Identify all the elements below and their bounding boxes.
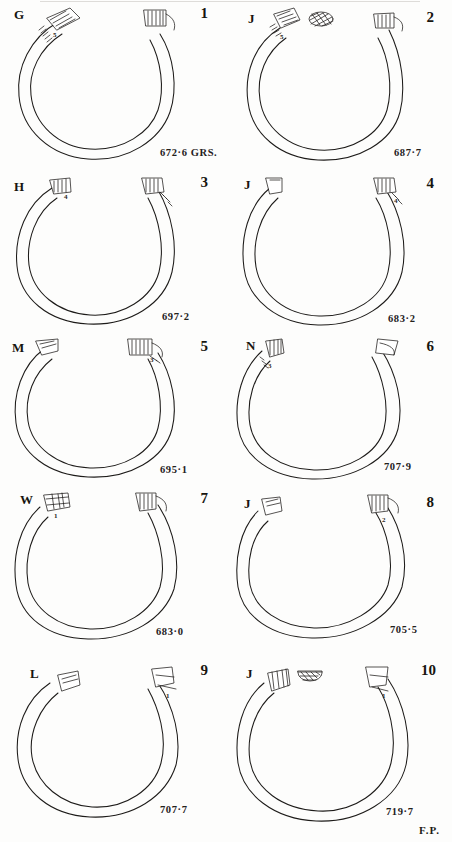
letter-code-2: J xyxy=(248,12,255,25)
weight-label-3: 697·2 xyxy=(162,312,190,323)
figure-cell-1: G 1 5 672·6 GRS. xyxy=(0,0,226,168)
bracelet-drawing-1 xyxy=(0,0,226,168)
weight-label-7: 683·0 xyxy=(156,627,184,638)
figure-grid: G 1 5 672·6 GRS. xyxy=(0,0,452,842)
figure-number-8: 8 xyxy=(427,495,435,510)
letter-code-3: H xyxy=(14,180,25,193)
weight-label-9: 707·7 xyxy=(160,805,188,816)
weight-label-4: 683·2 xyxy=(388,314,416,325)
weight-label-8: 705·5 xyxy=(390,625,418,636)
weight-label-5: 695·1 xyxy=(160,465,188,476)
letter-code-8: J xyxy=(244,497,251,510)
figure-cell-4: J 4 4 683·2 xyxy=(226,168,452,335)
letter-code-9: L xyxy=(30,667,39,680)
figure-cell-3: H 3 4 697·2 xyxy=(0,168,226,335)
micro-annotation-4: 4 xyxy=(394,198,398,205)
micro-annotation-8: 2 xyxy=(382,517,386,524)
bracelet-drawing-3 xyxy=(0,168,226,335)
bracelet-drawing-10 xyxy=(226,645,452,842)
figure-cell-5: M 5 3 695·1 xyxy=(0,335,226,485)
weight-label-10: 719·7 xyxy=(386,807,414,818)
figure-cell-8: J 8 2 705·5 xyxy=(226,485,452,645)
micro-annotation-10: 1 xyxy=(382,693,386,700)
figure-number-2: 2 xyxy=(427,10,435,25)
figure-number-9: 9 xyxy=(201,663,209,678)
weight-label-1: 672·6 GRS. xyxy=(160,148,217,159)
figure-number-7: 7 xyxy=(201,491,209,506)
bracelet-drawing-5 xyxy=(0,335,226,485)
micro-annotation-3: 4 xyxy=(64,194,68,201)
letter-code-7: W xyxy=(20,493,34,506)
letter-code-5: M xyxy=(12,341,25,354)
figure-cell-10: J 10 1 719·7 xyxy=(226,645,452,842)
illustration-plate: G 1 5 672·6 GRS. xyxy=(0,0,452,842)
micro-annotation-9: 1 xyxy=(166,693,170,700)
figure-number-6: 6 xyxy=(427,339,435,354)
bracelet-drawing-2 xyxy=(226,0,452,168)
letter-code-4: J xyxy=(244,178,251,191)
bracelet-drawing-6 xyxy=(226,335,452,485)
weight-label-2: 687·7 xyxy=(394,148,422,159)
micro-annotation-5: 3 xyxy=(150,357,154,364)
figure-cell-7: W 7 1 683·0 xyxy=(0,485,226,645)
bracelet-drawing-8 xyxy=(226,485,452,645)
micro-annotation-2: 5 xyxy=(280,34,284,41)
figure-number-4: 4 xyxy=(427,176,435,191)
letter-code-10: J xyxy=(246,667,253,680)
figure-number-10: 10 xyxy=(421,663,436,678)
section-oval-2 xyxy=(309,12,333,26)
figure-cell-6: N 6 3 707·9 xyxy=(226,335,452,485)
figure-number-1: 1 xyxy=(201,6,209,21)
figure-number-5: 5 xyxy=(201,339,209,354)
bracelet-drawing-4 xyxy=(226,168,452,335)
artist-signature: F.P. xyxy=(419,824,440,836)
section-oval-10 xyxy=(298,671,322,681)
micro-annotation-7: 1 xyxy=(54,513,58,520)
micro-annotation-6: 3 xyxy=(268,363,272,370)
weight-label-6: 707·9 xyxy=(384,462,412,473)
figure-cell-9: L 9 1 707·7 xyxy=(0,645,226,842)
micro-annotation-1: 5 xyxy=(53,32,57,39)
bracelet-drawing-7 xyxy=(0,485,226,645)
figure-number-3: 3 xyxy=(201,175,209,190)
letter-code-1: G xyxy=(14,8,25,21)
letter-code-6: N xyxy=(246,339,256,352)
figure-cell-2: J 2 5 687·7 xyxy=(226,0,452,168)
